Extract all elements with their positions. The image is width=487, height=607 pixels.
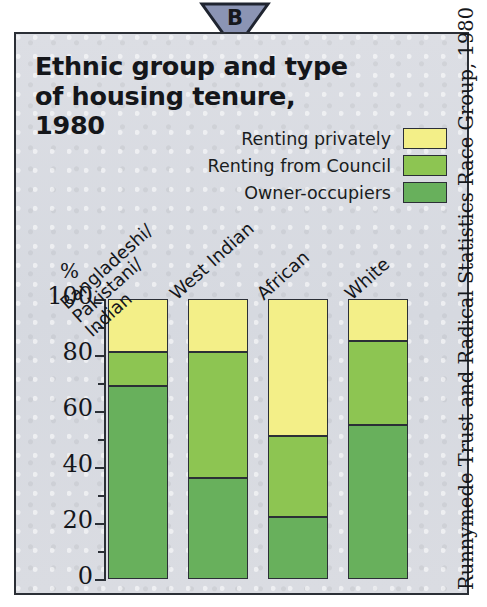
stacked-bar bbox=[268, 299, 328, 579]
source-credit: Runnymede Trust and Radical Statistics R… bbox=[455, 40, 485, 590]
x-category-label: African bbox=[254, 248, 313, 304]
y-tick-label: 20 bbox=[29, 506, 93, 534]
y-tick-label: 0 bbox=[29, 562, 93, 590]
bar-segment bbox=[268, 517, 328, 579]
stacked-bar bbox=[348, 299, 408, 579]
stacked-bar bbox=[188, 299, 248, 579]
bar-segment bbox=[188, 352, 248, 478]
bar-segment bbox=[188, 478, 248, 579]
chart-panel: Ethnic group and type of housing tenure,… bbox=[14, 32, 469, 595]
bar-segment bbox=[108, 386, 168, 579]
bar-segment bbox=[348, 341, 408, 425]
y-tick-minor bbox=[98, 439, 104, 441]
y-tick-major bbox=[95, 523, 104, 525]
y-tick-major bbox=[95, 411, 104, 413]
y-tick-minor bbox=[98, 495, 104, 497]
bar-segment bbox=[348, 425, 408, 579]
y-tick-minor bbox=[98, 383, 104, 385]
x-category-label: White bbox=[342, 255, 393, 304]
bar-segment bbox=[268, 299, 328, 436]
stacked-bar bbox=[108, 299, 168, 579]
y-tick-label: 80 bbox=[29, 338, 93, 366]
bar-segment bbox=[348, 299, 408, 341]
marker-letter: B bbox=[199, 6, 271, 30]
y-tick-major bbox=[95, 467, 104, 469]
bar-segment bbox=[108, 352, 168, 386]
y-tick-label: 40 bbox=[29, 450, 93, 478]
y-tick-minor bbox=[98, 551, 104, 553]
bar-segment bbox=[268, 436, 328, 517]
y-tick-major bbox=[95, 355, 104, 357]
y-axis-line bbox=[104, 299, 106, 581]
y-tick-major bbox=[95, 579, 104, 581]
bar-segment bbox=[188, 299, 248, 352]
figure-panel-b: B Ethnic group and type of housing tenur… bbox=[0, 0, 487, 607]
plot-area: % 100806040200 Bangladeshi/ Pakistani/ I… bbox=[16, 34, 471, 597]
y-tick-label: 60 bbox=[29, 394, 93, 422]
